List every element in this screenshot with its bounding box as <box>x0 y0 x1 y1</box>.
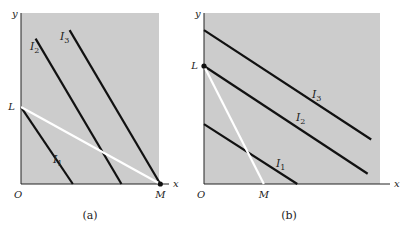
panel-a-plot-area <box>21 13 159 184</box>
figure: yxOI1I2I3LM(a)yxOI1I2I3LM(b) <box>0 0 401 236</box>
panel-a-x-axis-label: x <box>173 178 179 189</box>
panel-b-y-axis-label: y <box>194 8 201 19</box>
panel-b-point-label-l: L <box>190 60 198 71</box>
panel-b-point-label-m: M <box>258 189 270 200</box>
panel-a-point-label-m: M <box>154 189 166 200</box>
panel-a-y-axis-label: y <box>11 8 18 19</box>
panel-b-caption: (b) <box>281 209 297 222</box>
panel-b-point-l-dot <box>201 63 206 68</box>
panel-b-x-axis-label: x <box>394 178 400 189</box>
panel-b-origin-label: O <box>197 189 205 200</box>
panel-a-origin-label: O <box>14 189 22 200</box>
panel-a-point-m-dot <box>158 181 163 186</box>
panel-a-point-label-l: L <box>7 101 15 112</box>
panel-a-caption: (a) <box>82 209 97 222</box>
panel-b-plot-area <box>204 13 380 184</box>
